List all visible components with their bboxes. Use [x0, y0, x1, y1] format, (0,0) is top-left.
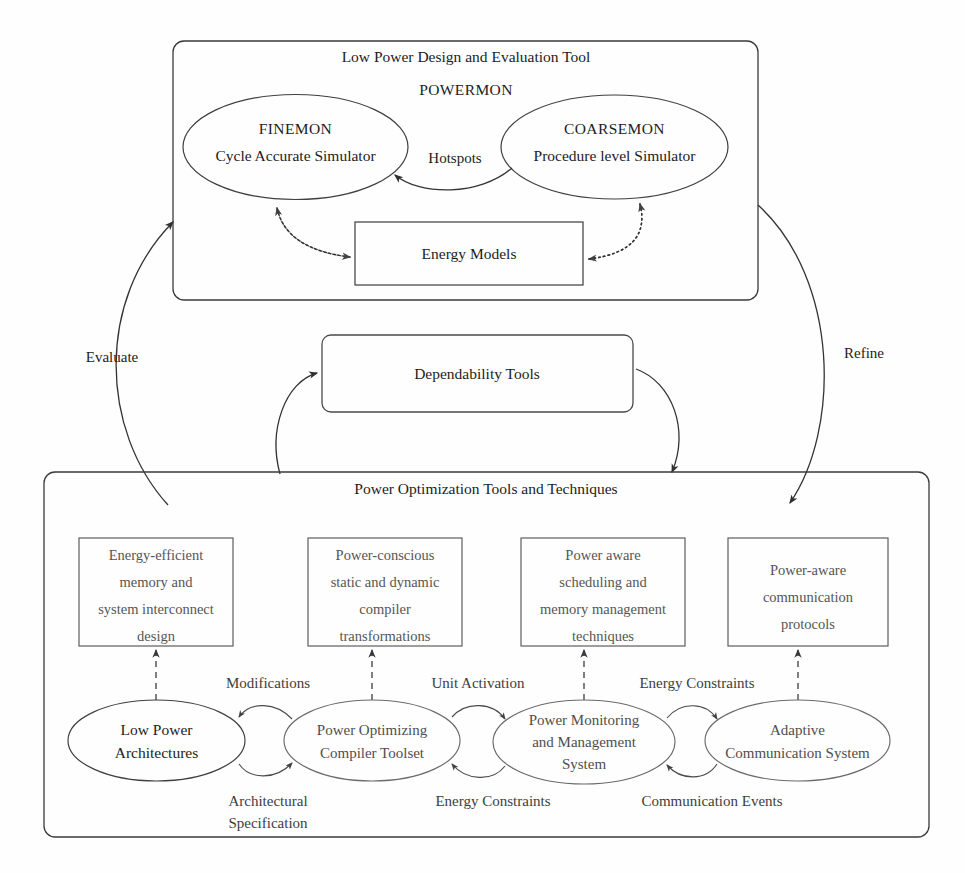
power-optimization-panel: Power Optimization Tools and Techniques …: [44, 472, 929, 837]
unit-activation-label: Unit Activation: [432, 675, 525, 691]
communication-events-arrow: [667, 764, 717, 777]
bottom-panel-title: Power Optimization Tools and Techniques: [354, 480, 617, 497]
architectural-specification-arrow: [239, 763, 292, 776]
component-ellipse: [284, 700, 460, 781]
technique-box-power-conscious-compiler: Power-conscious static and dynamic compi…: [308, 538, 462, 646]
refine-arrow: [758, 205, 824, 503]
coarsemon-to-energy-models-arrow: [589, 204, 642, 259]
architectural-specification-label-line2: Specification: [228, 815, 308, 831]
technique-box-line: memory and: [120, 574, 194, 590]
energy-constraints-lower-arrow: [452, 764, 505, 777]
technique-box-line: Energy-efficient: [109, 547, 203, 563]
system-architecture-diagram: Evaluate Refine Low Power Design and Eva…: [0, 0, 965, 873]
component-ellipse-line: Power Monitoring: [529, 712, 640, 728]
component-ellipse: [68, 700, 245, 781]
dependability-tools-label: Dependability Tools: [414, 365, 540, 382]
component-ellipse-line: Low Power: [121, 721, 194, 738]
hotspots-label: Hotspots: [428, 150, 482, 166]
powermon-label: POWERMON: [419, 81, 513, 98]
technique-box-line: memory management: [540, 601, 666, 617]
finemon-name: FINEMON: [259, 120, 332, 137]
energy-models-to-finemon-arrow: [277, 208, 350, 257]
refine-label: Refine: [844, 345, 884, 361]
component-ellipse-line: Compiler Toolset: [320, 745, 425, 761]
energy-constraints-upper-arrow: [667, 706, 717, 719]
technique-box-line: communication: [763, 589, 854, 605]
component-ellipse-line: Power Optimizing: [317, 722, 428, 738]
energy-constraints-upper-label: Energy Constraints: [639, 675, 754, 691]
finemon-node: FINEMON Cycle Accurate Simulator: [183, 95, 408, 200]
component-ellipse-line: Adaptive: [770, 722, 825, 738]
component-ellipse-line: Communication System: [725, 745, 870, 761]
energy-models-node: Energy Models: [355, 222, 583, 285]
finemon-description: Cycle Accurate Simulator: [215, 147, 376, 164]
bottom-panel-border: [44, 472, 929, 837]
coarsemon-node: COARSEMON Procedure level Simulator: [501, 95, 728, 199]
energy-models-to-coarsemon-arrow: [589, 204, 642, 259]
component-power-monitoring-and-management-system: Power Monitoring and Management System: [493, 700, 675, 784]
technique-box-line: compiler: [359, 601, 411, 617]
unit-activation-arrow: [452, 706, 505, 719]
technique-box-power-aware-communication: Power-aware communication protocols: [728, 538, 888, 646]
coarsemon-name: COARSEMON: [564, 120, 665, 137]
technique-box-line: protocols: [781, 616, 835, 632]
component-adaptive-communication-system: Adaptive Communication System: [705, 700, 890, 781]
technique-box-line: Power-aware: [770, 562, 846, 578]
finemon-to-energy-models-arrow: [277, 208, 350, 257]
figure-canvas: Evaluate Refine Low Power Design and Eva…: [0, 0, 965, 873]
modifications-arrow: [239, 706, 292, 719]
technique-box-line: techniques: [572, 628, 634, 644]
communication-events-label: Communication Events: [641, 793, 782, 809]
modifications-label: Modifications: [226, 675, 310, 691]
technique-box-line: Power-conscious: [336, 547, 435, 563]
energy-constraints-lower-label: Energy Constraints: [435, 793, 550, 809]
low-power-design-evaluation-panel: Low Power Design and Evaluation Tool POW…: [173, 41, 758, 300]
technique-box-line: scheduling and: [559, 574, 647, 590]
component-ellipse-line: and Management: [532, 734, 637, 750]
dependability-to-bottom-arrow: [636, 369, 679, 472]
evaluate-label: Evaluate: [86, 349, 139, 365]
component-power-optimizing-compiler-toolset: Power Optimizing Compiler Toolset: [284, 700, 460, 781]
technique-box-power-aware-scheduling: Power aware scheduling and memory manage…: [521, 538, 685, 646]
component-ellipse-line: System: [562, 756, 607, 772]
component-ellipse-line: Architectures: [115, 744, 199, 761]
component-ellipse: [705, 700, 890, 781]
technique-box-line: design: [137, 628, 176, 644]
top-panel-title: Low Power Design and Evaluation Tool: [342, 48, 591, 65]
architectural-specification-label-line1: Architectural: [228, 793, 307, 809]
technique-box-line: static and dynamic: [331, 574, 440, 590]
energy-models-label: Energy Models: [422, 245, 517, 262]
coarsemon-description: Procedure level Simulator: [534, 147, 697, 164]
technique-box-line: transformations: [339, 628, 430, 644]
hotspots-arrow: [395, 168, 512, 190]
technique-box-line: Power aware: [565, 547, 640, 563]
technique-box-line: system interconnect: [98, 601, 214, 617]
technique-box-energy-efficient-memory: Energy-efficient memory and system inter…: [79, 538, 233, 646]
dependability-tools-node: Dependability Tools: [322, 335, 633, 412]
component-low-power-architectures: Low Power Architectures: [68, 700, 245, 781]
bottom-to-dependability-arrow: [276, 373, 317, 474]
